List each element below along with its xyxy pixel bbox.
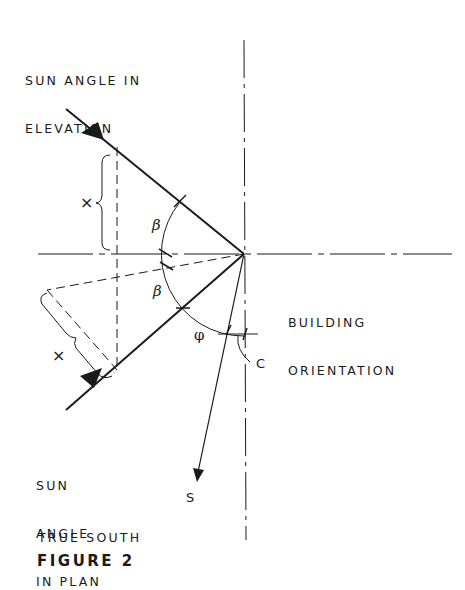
projected-ray-dashed — [47, 254, 244, 290]
angle-c-arc — [238, 336, 250, 362]
phi-label: φ — [194, 326, 205, 344]
true-south-line — [198, 254, 244, 472]
beta-upper-label: β — [152, 216, 161, 234]
lower-x-label: × — [52, 346, 65, 365]
upper-x-brace — [96, 155, 110, 250]
true-south-label: TRUE SOUTH — [38, 530, 141, 546]
south-arrowhead — [193, 468, 204, 482]
south-label: S — [186, 490, 194, 505]
angle-c-label: C — [256, 356, 265, 371]
upper-x-label: × — [80, 193, 93, 212]
elevation-label: SUN ANGLE IN ELEVATION — [25, 41, 141, 153]
building-orientation-label: BUILDING ORIENTATION — [288, 283, 396, 395]
beta-lower-label: β — [153, 282, 162, 300]
vertical-reference-line — [244, 40, 246, 540]
plan-arrowhead — [80, 368, 102, 388]
figure-caption: FIGURE 2 — [37, 553, 135, 569]
